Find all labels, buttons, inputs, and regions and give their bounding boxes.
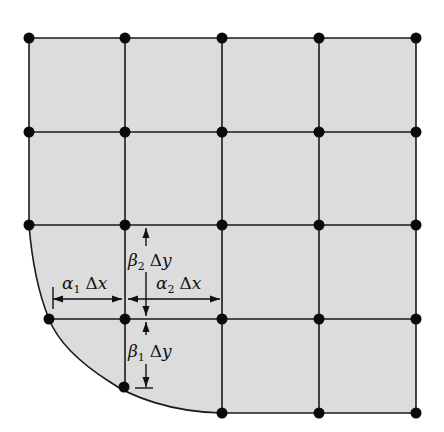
- subscript: 1: [73, 283, 80, 296]
- node: [314, 220, 325, 231]
- delta-symbol: Δ: [150, 341, 162, 361]
- delta-symbol: Δ: [85, 273, 97, 293]
- finite-difference-grid-diagram: α1Δx α2Δx β2Δy β1Δy: [0, 0, 444, 432]
- alpha1-dx-label: α1Δx: [62, 273, 108, 296]
- node: [217, 314, 228, 325]
- beta1-dy-label: β1Δy: [127, 341, 172, 364]
- node: [120, 33, 131, 44]
- variable: y: [161, 341, 172, 361]
- node: [411, 408, 422, 419]
- subscript: 1: [138, 351, 145, 364]
- node: [24, 33, 35, 44]
- node: [411, 314, 422, 325]
- node: [314, 314, 325, 325]
- node: [314, 33, 325, 44]
- node: [120, 220, 131, 231]
- beta-symbol: β: [127, 341, 138, 361]
- alpha-symbol: α: [156, 273, 168, 293]
- beta2-dy-label: β2Δy: [127, 250, 172, 273]
- subscript: 2: [167, 283, 174, 296]
- beta-symbol: β: [127, 250, 138, 270]
- node: [217, 33, 228, 44]
- subscript: 2: [138, 260, 145, 273]
- center-node: [120, 314, 131, 325]
- node: [314, 127, 325, 138]
- boundary-node-left: [44, 314, 55, 325]
- alpha-symbol: α: [62, 273, 74, 293]
- node: [217, 220, 228, 231]
- variable: x: [192, 273, 202, 293]
- node: [217, 127, 228, 138]
- alpha2-dx-label: α2Δx: [156, 273, 202, 296]
- node: [24, 220, 35, 231]
- node: [411, 33, 422, 44]
- variable: y: [161, 250, 172, 270]
- node: [411, 127, 422, 138]
- node: [217, 408, 228, 419]
- boundary-node-bottom: [119, 382, 130, 393]
- node: [314, 408, 325, 419]
- delta-symbol: Δ: [150, 250, 162, 270]
- node: [120, 127, 131, 138]
- delta-symbol: Δ: [179, 273, 191, 293]
- variable: x: [98, 273, 108, 293]
- node: [24, 127, 35, 138]
- node: [411, 220, 422, 231]
